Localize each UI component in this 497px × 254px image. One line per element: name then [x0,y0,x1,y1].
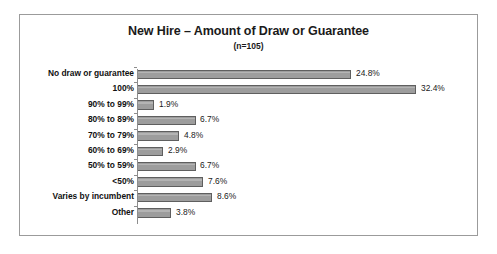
category-label: 50% to 59% [88,160,134,171]
bar-highlight [138,87,415,89]
bar-row: 50% to 59% 6.7% [20,159,479,174]
value-label: 8.6% [217,191,236,202]
bar[interactable] [138,100,154,110]
axis-tick [134,67,137,68]
value-label: 4.8% [184,130,203,141]
bar-row: No draw or guarantee 24.8% [20,67,479,82]
plot-area: No draw or guarantee 24.8% 100% 32.4% 90… [20,67,479,233]
bar[interactable] [138,147,163,157]
category-label: 100% [113,83,134,94]
bar-highlight [138,164,195,166]
value-label: 3.8% [176,207,195,218]
chart-frame: New Hire – Amount of Draw or Guarantee (… [19,14,478,236]
axis-tick [134,82,137,83]
bar-row: 90% to 99% 1.9% [20,98,479,113]
value-label: 32.4% [421,83,445,94]
chart-title-block: New Hire – Amount of Draw or Guarantee (… [20,24,477,52]
bar[interactable] [138,116,196,126]
bar[interactable] [138,131,179,141]
bar-highlight [138,133,178,135]
axis-tick [134,129,137,130]
bar[interactable] [138,162,196,172]
category-label: Varies by incumbent [53,191,134,202]
category-label: Other [112,207,134,218]
bar-highlight [138,149,162,151]
bar-highlight [138,72,350,74]
bar-row: 60% to 69% 2.9% [20,144,479,159]
axis-tick [134,206,137,207]
bar-highlight [138,210,170,212]
axis-tick [134,190,137,191]
value-label: 2.9% [168,145,187,156]
category-label: 60% to 69% [88,145,134,156]
bar-row: <50% 7.6% [20,175,479,190]
bar-row: 70% to 79% 4.8% [20,129,479,144]
value-label: 24.8% [356,68,380,79]
category-label: 80% to 89% [88,114,134,125]
bar[interactable] [138,85,416,95]
bar-row: 100% 32.4% [20,82,479,97]
value-label: 6.7% [200,160,219,171]
chart-subtitle: (n=105) [20,40,477,52]
axis-tick [134,175,137,176]
bar-row: Varies by incumbent 8.6% [20,190,479,205]
bar-highlight [138,195,211,197]
bar[interactable] [138,177,203,187]
bar-highlight [138,179,202,181]
bar-highlight [138,118,195,120]
category-label: No draw or guarantee [48,68,134,79]
value-label: 1.9% [159,99,178,110]
axis-tick [134,98,137,99]
bar[interactable] [138,208,171,218]
axis-tick [134,113,137,114]
axis-tick [134,144,137,145]
value-label: 6.7% [200,114,219,125]
category-label: 90% to 99% [88,99,134,110]
bar-highlight [138,102,153,104]
bar-row: Other 3.8% [20,206,479,221]
category-label: 70% to 79% [88,130,134,141]
bar-row: 80% to 89% 6.7% [20,113,479,128]
category-label: <50% [112,176,134,187]
bar[interactable] [138,70,351,80]
value-label: 7.6% [208,176,227,187]
axis-tick [134,159,137,160]
bar[interactable] [138,193,212,203]
page-title: New Hire – Amount of Draw or Guarantee [20,24,477,39]
